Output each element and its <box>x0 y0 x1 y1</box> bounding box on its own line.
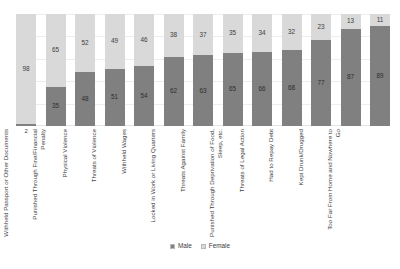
bar-value-label-male: 68 <box>288 85 295 91</box>
x-axis-tick-inner: Kept Drunk/Drugged <box>297 129 305 237</box>
bar-value-label-male: 77 <box>318 80 325 86</box>
bar-column[interactable]: 1387 <box>341 14 361 126</box>
x-axis-tick-label: Withheld Passport or Other Documents <box>2 129 10 237</box>
bar-value-label-female: 11 <box>377 17 383 23</box>
bar-segment-male[interactable]: 87 <box>341 29 361 126</box>
bar-column[interactable]: 982 <box>16 14 36 126</box>
bar-value-label-female: 37 <box>200 32 207 38</box>
bar-column[interactable]: 2377 <box>311 14 331 126</box>
x-axis-tick-label: Physical Violence <box>61 129 69 237</box>
bar-value-label-male: 66 <box>259 86 266 92</box>
bar-value-label-female: 23 <box>318 24 325 30</box>
x-axis-tick-inner: Physical Violence <box>61 129 69 237</box>
stacked-bar-chart: 9826535524849514654386237633565346632682… <box>0 0 400 269</box>
bar-segment-male[interactable]: 48 <box>75 72 95 126</box>
x-axis-tick-inner: Locked in Work or Living Quarters <box>149 129 157 237</box>
x-axis-tick-label: Threats Against Family <box>179 129 187 237</box>
bar-value-label-male: 89 <box>377 73 384 79</box>
bar-value-label-male: 35 <box>52 103 59 109</box>
x-axis-tick-inner: Threats of Legal Action <box>238 129 246 237</box>
bar-segment-female[interactable]: 37 <box>193 14 213 55</box>
x-axis-tick-inner: Withheld Passport or Other Documents <box>2 129 10 237</box>
bar-segment-male[interactable]: 35 <box>46 87 66 126</box>
bar-column[interactable]: 5248 <box>75 14 95 126</box>
x-axis-tick-label: Threats of Violence <box>90 129 98 237</box>
x-axis-tick-inner: Withheld Wages <box>120 129 128 237</box>
bar-segment-male[interactable]: 51 <box>105 69 125 126</box>
bar-segment-male[interactable]: 62 <box>164 57 184 126</box>
bar-segment-male[interactable]: 66 <box>252 52 272 126</box>
bar-segment-male[interactable]: 54 <box>134 66 154 126</box>
bar-segment-female[interactable]: 35 <box>223 14 243 53</box>
x-axis-tick: Too Far From Home and Nowhere to Go <box>370 128 390 238</box>
bar-column[interactable]: 3763 <box>193 14 213 126</box>
bar-series-container: 9826535524849514654386237633565346632682… <box>16 14 390 126</box>
bar-column[interactable]: 3466 <box>252 14 272 126</box>
bar-segment-female[interactable]: 52 <box>75 14 95 72</box>
x-axis-tick-inner: Punished Through Deprivation of Food, Sl… <box>208 129 223 237</box>
chart-legend: MaleFemale <box>0 243 400 249</box>
x-axis-tick-inner: Punished Through Fine/Financial Penalty <box>31 129 46 237</box>
bar-value-label-female: 49 <box>111 38 118 44</box>
bar-segment-female[interactable]: 32 <box>282 14 302 50</box>
bar-segment-female[interactable]: 65 <box>46 14 66 87</box>
bar-column[interactable]: 1189 <box>370 14 390 126</box>
x-axis-tick-inner: Threats of Violence <box>90 129 98 237</box>
legend-label: Male <box>178 243 192 249</box>
bar-value-label-female: 13 <box>347 18 354 24</box>
x-axis-tick-label: Withheld Wages <box>120 129 128 237</box>
x-axis-tick-label: Threats of Legal Action <box>238 129 246 237</box>
bar-value-label-female: 65 <box>52 47 59 53</box>
legend-item[interactable]: Female <box>201 243 230 249</box>
bar-segment-female[interactable]: 46 <box>134 14 154 66</box>
bar-segment-male[interactable]: 2 <box>16 124 36 126</box>
x-axis-tick-label: Had to Repay Debt <box>267 129 275 237</box>
bar-segment-female[interactable]: 13 <box>341 14 361 29</box>
bar-segment-female[interactable]: 34 <box>252 14 272 52</box>
bar-value-label-male: 62 <box>170 88 177 94</box>
bar-value-label-male: 65 <box>229 86 236 92</box>
bar-segment-male[interactable]: 77 <box>311 40 331 126</box>
bar-column[interactable]: 6535 <box>46 14 66 126</box>
bar-segment-female[interactable]: 98 <box>16 14 36 124</box>
bar-segment-male[interactable]: 63 <box>193 55 213 126</box>
bar-segment-female[interactable]: 38 <box>164 14 184 57</box>
bar-value-label-male: 54 <box>141 93 148 99</box>
x-axis-tick: Kept Drunk/Drugged <box>341 128 361 238</box>
bar-column[interactable]: 3565 <box>223 14 243 126</box>
bar-value-label-male: 87 <box>347 74 354 80</box>
bar-value-label-male: 51 <box>111 94 118 100</box>
bar-value-label-female: 34 <box>259 30 266 36</box>
bar-segment-male[interactable]: 68 <box>282 50 302 126</box>
bar-value-label-male: 63 <box>200 88 207 94</box>
x-axis-tick-inner: Had to Repay Debt <box>267 129 275 237</box>
bar-column[interactable]: 3862 <box>164 14 184 126</box>
x-axis-tick-label: Punished Through Deprivation of Food, Sl… <box>208 129 223 237</box>
x-axis-tick-inner: Threats Against Family <box>179 129 187 237</box>
bar-value-label-female: 46 <box>141 37 148 43</box>
bar-segment-female[interactable]: 11 <box>370 14 390 26</box>
bar-value-label-female: 32 <box>288 29 295 35</box>
legend-swatch <box>170 244 175 249</box>
x-axis-tick-label: Punished Through Fine/Financial Penalty <box>31 129 46 237</box>
bar-value-label-female: 98 <box>23 66 30 72</box>
legend-swatch <box>201 244 206 249</box>
x-axis-tick-label: Locked in Work or Living Quarters <box>149 129 157 237</box>
bar-value-label-female: 35 <box>229 30 236 36</box>
x-axis-tick-label: Too Far From Home and Nowhere to Go <box>326 129 341 237</box>
bar-column[interactable]: 3268 <box>282 14 302 126</box>
x-axis-labels: Sexual ViolenceWithheld Passport or Othe… <box>16 128 390 238</box>
bar-segment-female[interactable]: 49 <box>105 14 125 69</box>
bar-value-label-female: 38 <box>170 32 177 38</box>
bar-segment-female[interactable]: 23 <box>311 14 331 40</box>
legend-item[interactable]: Male <box>170 243 192 249</box>
bar-value-label-male: 48 <box>82 96 89 102</box>
bar-column[interactable]: 4951 <box>105 14 125 126</box>
x-axis-tick-inner: Too Far From Home and Nowhere to Go <box>326 129 341 237</box>
bar-value-label-female: 52 <box>82 40 89 46</box>
bar-segment-male[interactable]: 89 <box>370 26 390 126</box>
bar-segment-male[interactable]: 65 <box>223 53 243 126</box>
legend-label: Female <box>209 243 230 249</box>
x-axis-tick-label: Kept Drunk/Drugged <box>297 129 305 237</box>
bar-column[interactable]: 4654 <box>134 14 154 126</box>
